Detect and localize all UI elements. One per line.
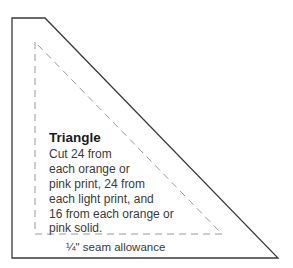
instruction-line: pink solid.	[49, 221, 102, 235]
instruction-line: each light print, and	[49, 192, 154, 206]
template-shape	[0, 0, 293, 268]
instruction-line: 16 from each orange or	[49, 207, 174, 221]
seam-allowance-label: ¼" seam allowance	[66, 241, 165, 253]
instruction-line: pink print, 24 from	[49, 177, 145, 191]
shape-title: Triangle	[49, 130, 101, 145]
instruction-line: Cut 24 from	[49, 147, 112, 161]
template-diagram: Triangle Cut 24 from each orange or pink…	[0, 0, 293, 268]
instruction-line: each orange or	[49, 162, 130, 176]
